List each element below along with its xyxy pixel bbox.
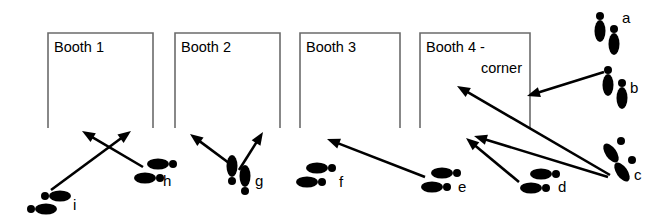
footprint-sole-icon [595, 20, 606, 42]
footprint-pair-h: h [134, 159, 177, 190]
footprint-label-e: e [458, 178, 466, 195]
booth-3: Booth 3 [300, 33, 400, 128]
arrow-head [457, 86, 471, 97]
footprint-sole-icon [35, 204, 57, 215]
footprint-toe-icon [610, 25, 618, 33]
footprint-toe-icon [542, 184, 550, 192]
footprint-sole-icon [520, 183, 542, 194]
booth-1: Booth 1 [48, 33, 153, 128]
footprint-toe-icon [228, 177, 236, 185]
arrow-shaft [239, 140, 258, 170]
footprint-sole-icon [306, 163, 328, 174]
booth-4: Booth 4 -corner [420, 33, 530, 128]
footprint-pair-a: a [595, 9, 632, 55]
footprint-label-d: d [558, 178, 566, 195]
footprint-sole-icon [240, 165, 251, 187]
arrow-shaft [336, 142, 425, 177]
footprint-label-i: i [73, 196, 76, 213]
booth-label-line: Booth 4 - [426, 39, 485, 55]
footprint-pair-d: d [520, 169, 566, 196]
arrow-shaft [465, 91, 610, 175]
footprint-label-c: c [634, 166, 642, 183]
booth-label-line: corner [481, 60, 522, 76]
arrow-c-to-booth4-high [457, 86, 610, 175]
footprint-toe-icon [241, 187, 249, 195]
footprint-sole-icon [134, 173, 156, 184]
arrow-g-to-booth2-left [190, 134, 233, 166]
booth-label-line: Booth 1 [54, 39, 104, 55]
arrow-shaft [473, 144, 519, 182]
footprint-label-a: a [622, 9, 631, 26]
arrow-layer [51, 72, 610, 190]
arrow-shaft [536, 72, 604, 93]
arrow-b-to-booth4-upper [527, 72, 604, 97]
footprint-label-b: b [630, 79, 638, 96]
footprint-sole-icon [421, 182, 443, 193]
footprint-sole-icon [609, 33, 620, 55]
footprint-toe-icon [604, 66, 612, 74]
footprint-toe-icon [169, 160, 177, 168]
footprint-sole-icon [600, 141, 622, 165]
footprint-toe-icon [596, 12, 604, 20]
footprint-sole-icon [530, 169, 552, 180]
footprint-sole-icon [49, 191, 71, 202]
footprint-toe-icon [41, 192, 49, 200]
arrow-e-to-booth3 [327, 139, 425, 177]
footprint-toe-icon [628, 156, 636, 164]
footprint-pair-f: f [296, 163, 344, 191]
booth-label-line: Booth 3 [306, 39, 356, 55]
footprint-pair-b: b [603, 66, 639, 109]
footprint-label-f: f [339, 173, 344, 190]
arrow-head [327, 139, 341, 149]
footprint-sole-icon [603, 74, 614, 96]
arrow-shaft [51, 137, 123, 190]
footprint-toe-icon [328, 164, 336, 172]
footprint-toe-icon [443, 183, 451, 191]
footprint-toe-icon [318, 178, 326, 186]
footprint-sole-icon [431, 168, 453, 179]
arrow-head [527, 87, 541, 97]
footprint-sole-icon [617, 87, 628, 109]
footprint-path-diagram: Booth 1Booth 2Booth 3Booth 4 -corner abc… [0, 0, 665, 219]
arrow-head [117, 131, 131, 143]
arrow-g-to-booth2-right [239, 132, 263, 170]
footprint-toe-icon [552, 170, 560, 178]
booth-layer: Booth 1Booth 2Booth 3Booth 4 -corner [48, 33, 530, 128]
footprint-label-h: h [163, 172, 171, 189]
booth-label-line: Booth 2 [181, 39, 231, 55]
footprint-sole-icon [296, 177, 318, 188]
footprint-toe-icon [618, 79, 626, 87]
arrow-head [82, 131, 96, 142]
diagram-canvas: Booth 1Booth 2Booth 3Booth 4 -corner abc… [0, 0, 665, 219]
booth-2: Booth 2 [175, 33, 280, 128]
footprint-sole-icon [227, 155, 238, 177]
footprint-toe-icon [27, 205, 35, 213]
footprint-toe-icon [453, 169, 461, 177]
arrow-head [252, 132, 263, 146]
arrow-d-to-booth4 [466, 138, 519, 182]
footprint-label-g: g [255, 172, 263, 189]
footprint-toe-icon [617, 137, 625, 145]
footprint-pair-e: e [421, 168, 466, 196]
footprint-sole-icon [147, 159, 169, 170]
footprint-pair-i: i [27, 191, 76, 215]
footprint-sole-icon [611, 160, 633, 184]
